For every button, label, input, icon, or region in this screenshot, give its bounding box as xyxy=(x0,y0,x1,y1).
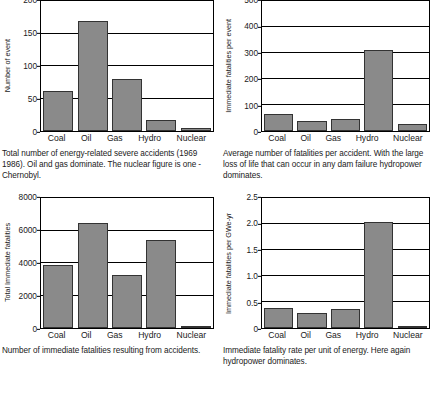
x-axis-tick-label: Oil xyxy=(81,331,92,340)
chart-panel-severe-accidents: Number of event 200150100500 CoalOilGasH… xyxy=(0,0,217,197)
x-axis-tick-label: Nuclear xyxy=(393,331,423,340)
bar-oil xyxy=(297,121,326,131)
y-axis-tick-label: 4000 xyxy=(19,259,37,267)
chart-caption: Total number of energy-related severe ac… xyxy=(2,148,213,182)
bar-hydro xyxy=(364,50,393,131)
y-axis-tick-label: 100 xyxy=(244,101,258,109)
bar-nuclear xyxy=(181,326,211,328)
x-axis-tick-label: Hydro xyxy=(138,134,161,143)
x-axis-tick-label: Gas xyxy=(107,331,123,340)
bar-chart-fatality-rate-per-energy: Immediate fatalities per GWe-yr 2.52.01.… xyxy=(217,197,434,347)
bar-chart-severe-accidents: Number of event 200150100500 CoalOilGasH… xyxy=(0,0,217,150)
x-axis-tick-label: Hydro xyxy=(356,331,379,340)
x-axis-tick-label: Oil xyxy=(300,134,311,143)
x-axis-tick-label: Hydro xyxy=(138,331,161,340)
bar-nuclear xyxy=(398,124,427,131)
x-axis-labels: CoalOilGasHydroNuclear xyxy=(40,331,214,340)
y-axis-tick-label: 2.0 xyxy=(246,219,258,227)
bar-hydro xyxy=(364,222,393,328)
bar-oil xyxy=(78,21,108,131)
y-axis-tick-label: 8000 xyxy=(19,193,37,201)
bar-coal xyxy=(43,265,73,328)
y-axis-tick-label: 0 xyxy=(32,325,37,333)
x-axis-tick-label: Coal xyxy=(268,331,286,340)
bar-nuclear xyxy=(398,326,427,328)
chart-caption: Immediate fatality rate per unit of ener… xyxy=(223,345,430,367)
x-axis-tick-label: Gas xyxy=(107,134,123,143)
bar-series xyxy=(262,1,429,131)
chart-panel-fatality-rate-per-energy: Immediate fatalities per GWe-yr 2.52.01.… xyxy=(217,197,434,394)
chart-panel-total-immediate-fatalities: Total Immediate fatalities 8000600040002… xyxy=(0,197,217,394)
bar-series xyxy=(41,198,213,328)
y-axis-tick-label: 6000 xyxy=(19,226,37,234)
y-axis-tick-label: 400 xyxy=(244,22,258,30)
chart-caption: Number of immediate fatalities resulting… xyxy=(2,345,213,356)
x-axis-labels: CoalOilGasHydroNuclear xyxy=(40,134,214,143)
plot-area xyxy=(40,197,214,329)
bar-chart-fatalities-per-event: Immediate fatalities per event 500400300… xyxy=(217,0,434,150)
y-axis-tick-label: 2.5 xyxy=(246,193,258,201)
y-axis-tick-label: 100 xyxy=(23,62,37,70)
x-axis-tick-label: Hydro xyxy=(356,134,379,143)
plot-area xyxy=(261,0,430,132)
x-axis-tick-label: Oil xyxy=(81,134,92,143)
x-axis-tick-label: Nuclear xyxy=(393,134,423,143)
y-axis-title-text: Total Immediate fatalities xyxy=(4,223,11,302)
figure-grid: Number of event 200150100500 CoalOilGasH… xyxy=(0,0,434,394)
bar-hydro xyxy=(146,240,176,328)
bar-coal xyxy=(43,91,73,131)
bar-gas xyxy=(112,79,142,131)
bar-coal xyxy=(264,308,293,328)
chart-panel-fatalities-per-event: Immediate fatalities per event 500400300… xyxy=(217,0,434,197)
y-axis-ticks: 80006000400020000 xyxy=(13,197,40,329)
x-axis-tick-label: Gas xyxy=(325,331,341,340)
chart-caption: Average number of fatalities per acciden… xyxy=(223,148,430,182)
x-axis-tick-label: Coal xyxy=(268,134,286,143)
x-axis-tick-label: Oil xyxy=(300,331,311,340)
y-axis-tick-label: 2000 xyxy=(19,292,37,300)
bar-oil xyxy=(78,223,108,328)
bar-hydro xyxy=(146,120,176,131)
y-axis-tick-label: 200 xyxy=(244,75,258,83)
bar-gas xyxy=(331,309,360,328)
x-axis-tick-label: Coal xyxy=(48,134,66,143)
y-axis-tick-label: 0 xyxy=(253,128,258,136)
x-axis-labels: CoalOilGasHydroNuclear xyxy=(261,134,430,143)
bar-gas xyxy=(331,119,360,131)
bar-oil xyxy=(297,313,326,328)
bar-gas xyxy=(112,275,142,328)
bar-series xyxy=(262,198,429,328)
y-axis-ticks: 5004003002001000 xyxy=(234,0,261,132)
bar-nuclear xyxy=(181,128,211,131)
x-axis-tick-label: Nuclear xyxy=(177,134,207,143)
x-axis-tick-label: Coal xyxy=(48,331,66,340)
y-axis-tick-label: 50 xyxy=(28,95,37,103)
y-axis-tick-label: 0.5 xyxy=(246,298,258,306)
y-axis-ticks: 200150100500 xyxy=(13,0,40,132)
x-axis-labels: CoalOilGasHydroNuclear xyxy=(261,331,430,340)
y-axis-ticks: 2.52.01.51.00.50 xyxy=(234,197,261,329)
y-axis-tick-label: 300 xyxy=(244,49,258,57)
y-axis-tick-label: 150 xyxy=(23,29,37,37)
y-axis-title-text: Immediate fatalities per GWe-yr xyxy=(225,213,232,314)
plot-area xyxy=(261,197,430,329)
y-axis-tick-label: 1.0 xyxy=(246,272,258,280)
y-axis-tick-label: 1.5 xyxy=(246,246,258,254)
y-axis-title-text: Number of event xyxy=(4,39,11,92)
y-axis-title-text: Immediate fatalities per event xyxy=(225,19,232,113)
y-axis-tick-label: 0 xyxy=(32,128,37,136)
bar-chart-total-immediate-fatalities: Total Immediate fatalities 8000600040002… xyxy=(0,197,217,347)
y-axis-tick-label: 0 xyxy=(253,325,258,333)
bar-series xyxy=(41,1,213,131)
plot-area xyxy=(40,0,214,132)
x-axis-tick-label: Gas xyxy=(325,134,341,143)
bar-coal xyxy=(264,114,293,131)
y-axis-tick-label: 500 xyxy=(244,0,258,4)
y-axis-tick-label: 200 xyxy=(23,0,37,4)
x-axis-tick-label: Nuclear xyxy=(177,331,207,340)
